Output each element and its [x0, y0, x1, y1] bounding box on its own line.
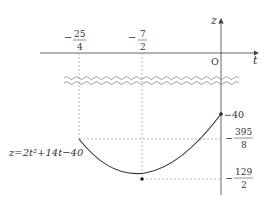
z-axis-label: z — [210, 14, 217, 27]
x-tick-num: 25 — [74, 29, 86, 39]
vertex-point — [140, 177, 144, 181]
endpoint-point — [219, 112, 223, 116]
x-tick-den: 2 — [140, 42, 146, 52]
y-tick-sign: − — [225, 133, 233, 144]
diagram-canvas: z t O − 25 4 − 7 2 −40 − 395 8 − 129 2 z… — [0, 0, 272, 222]
axis-break-icon — [64, 77, 239, 85]
y-tick-sign: − — [225, 173, 233, 184]
x-tick-num: 7 — [140, 29, 146, 39]
x-tick-sign: − — [64, 32, 72, 43]
y-tick-den: 8 — [241, 140, 247, 150]
x-tick-den: 4 — [77, 42, 83, 52]
equation-label: z=2t²+14t−40 — [8, 147, 84, 158]
origin-label: O — [211, 56, 219, 67]
x-tick-sign: − — [128, 32, 136, 43]
y-tick-den: 2 — [241, 180, 247, 190]
parabola-curve — [79, 114, 221, 174]
t-axis-label: t — [253, 54, 258, 67]
parabola-diagram: z t O − 25 4 − 7 2 −40 − 395 8 − 129 2 z… — [0, 0, 272, 222]
y-tick-num: 395 — [235, 127, 252, 137]
y-tick-num: 129 — [235, 167, 252, 177]
y-tick-label: −40 — [224, 109, 244, 120]
